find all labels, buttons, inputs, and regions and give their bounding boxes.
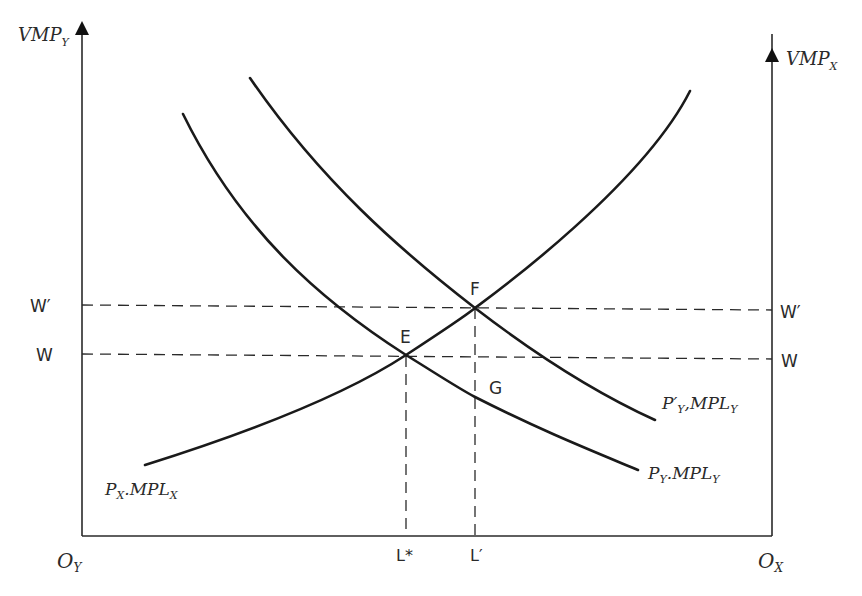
point-f-label: F <box>470 279 480 299</box>
py-prime-mply-label: P′Y,MPLY <box>661 393 739 416</box>
px-mplx-label: PX.MPLX <box>104 479 179 502</box>
w-left-label: W <box>36 345 53 365</box>
w-dashed-line <box>82 354 772 359</box>
right-origin-label: OX <box>758 549 783 575</box>
left-axis-label: VMPY <box>18 24 71 49</box>
py-prime-mply-curve <box>250 78 655 420</box>
l-prime-label: L′ <box>470 546 483 565</box>
left-origin-label: OY <box>57 549 82 575</box>
px-mplx-curve <box>145 91 690 465</box>
py-mply-curve <box>183 114 638 470</box>
labor-allocation-diagram: VMPY VMPX OY OX W′ W W′ W L* L′ E F G PX… <box>0 0 862 596</box>
w-right-label: W <box>781 351 798 371</box>
py-mply-label: PY.MPLY <box>647 463 721 486</box>
point-g-label: G <box>489 378 502 398</box>
right-axis-label: VMPX <box>786 48 839 73</box>
w-prime-dashed-line <box>82 305 772 310</box>
right-axis-arrow-icon <box>765 48 779 62</box>
w-prime-left-label: W′ <box>30 296 51 316</box>
w-prime-right-label: W′ <box>780 302 801 322</box>
left-axis-arrow-icon <box>75 21 89 35</box>
point-e-label: E <box>400 327 411 347</box>
l-star-label: L* <box>396 546 413 565</box>
